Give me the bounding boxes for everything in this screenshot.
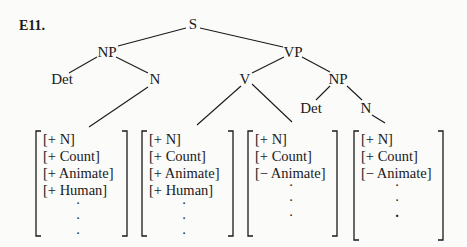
node-n-subject: N: [150, 72, 161, 87]
feature: [+ N]: [149, 131, 181, 148]
feature: [+ Count]: [255, 148, 312, 165]
ellipsis-dot: ·: [73, 226, 83, 241]
feature: [+ Animate]: [149, 165, 220, 182]
feature-matrix-subject-n: [+ N] [+ Count] [+ Animate] [+ Human] · …: [36, 131, 127, 236]
feature-matrix-object-n: [+ N] [+ Count] [− Animate] · · ·: [354, 131, 443, 240]
node-np-subject: NP: [97, 45, 116, 60]
ellipsis-dot: ·: [286, 178, 296, 193]
feature: [+ Count]: [361, 148, 418, 165]
ellipsis-dot: ·: [179, 196, 189, 211]
ellipsis-dot: ·: [286, 193, 296, 208]
ellipsis-dot: ·: [179, 226, 189, 241]
node-s: S: [189, 17, 197, 32]
ellipsis-dot: ·: [286, 208, 296, 223]
feature: [+ N]: [43, 131, 75, 148]
feature: [+ N]: [255, 131, 287, 148]
ellipsis-dot: ·: [392, 178, 402, 193]
node-np-object: NP: [328, 72, 347, 87]
feature: [+ N]: [361, 131, 393, 148]
node-det-subject: Det: [51, 72, 73, 87]
ellipsis-dot: ·: [179, 211, 189, 226]
node-n-object: N: [361, 101, 372, 116]
node-vp: VP: [283, 45, 302, 60]
ellipsis-dot: ·: [392, 193, 402, 208]
feature: [+ Count]: [149, 148, 206, 165]
feature: [+ Animate]: [43, 165, 114, 182]
feature-matrix-verb: [+ N] [+ Count] [+ Animate] [+ Human] · …: [142, 131, 233, 236]
node-det-object: Det: [300, 101, 322, 116]
node-v: V: [240, 72, 251, 87]
feature-matrix-verb-object: [+ N] [+ Count] [− Animate] · · ·: [248, 131, 337, 236]
ellipsis-dot: ·: [392, 209, 402, 224]
ellipsis-dot: ·: [73, 211, 83, 226]
ellipsis-dot: ·: [73, 196, 83, 211]
feature: [+ Count]: [43, 148, 100, 165]
